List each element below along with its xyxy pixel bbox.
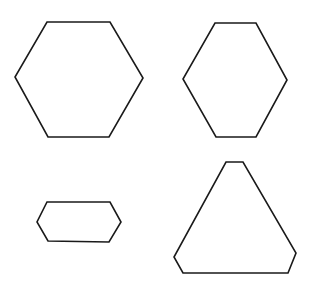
shapes-diagram [0,0,311,282]
regular-hexagon [15,22,143,137]
flat-hexagon [37,202,121,242]
tall-hexagon [183,23,287,137]
truncated-triangle [174,162,296,273]
